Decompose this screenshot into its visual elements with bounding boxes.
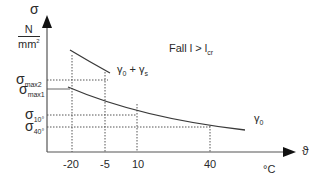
x-tick-10: 10 xyxy=(132,158,144,170)
label-sub: max1 xyxy=(28,91,45,98)
curve-gamma0-plus-gammas xyxy=(70,50,110,73)
diagram-canvas xyxy=(0,0,323,183)
x-axis-arrow-icon xyxy=(283,147,296,157)
x-tick-minus5: -5 xyxy=(100,158,110,170)
label-suffix: + γ xyxy=(126,63,144,75)
x-axis-unit: °C xyxy=(263,164,275,175)
unit-numerator: N xyxy=(18,24,40,37)
y-axis-arrow-icon xyxy=(42,15,52,28)
x-axis-symbol: ϑ xyxy=(302,145,309,157)
annotation-sub: cr xyxy=(207,49,213,56)
case-annotation: Fall l > lcr xyxy=(169,43,213,56)
curve-label-gamma0-plus-gammas: γ0 + γs xyxy=(117,64,148,77)
x-tick-40: 40 xyxy=(204,158,216,170)
label-sub: 40° xyxy=(34,128,45,135)
label-sub: 0 xyxy=(260,119,264,126)
unit-denominator-base: mm xyxy=(18,38,36,50)
label-base: σ xyxy=(25,118,34,134)
curve-label-gamma0: γ0 xyxy=(254,113,263,126)
label-sigma-max1: σmax1 xyxy=(19,82,45,98)
label-suffix-sub: s xyxy=(144,70,148,77)
unit-denominator-exp: 2 xyxy=(36,38,39,44)
curve-gamma0 xyxy=(68,87,245,130)
y-axis-unit: N mm2 xyxy=(18,24,40,50)
unit-denominator: mm2 xyxy=(18,37,40,50)
annotation-text: Fall l > l xyxy=(169,42,207,54)
label-sigma-40: σ40° xyxy=(25,119,44,135)
x-tick-minus20: -20 xyxy=(63,158,79,170)
label-base: σ xyxy=(19,81,28,97)
y-axis-symbol: σ xyxy=(30,2,39,16)
